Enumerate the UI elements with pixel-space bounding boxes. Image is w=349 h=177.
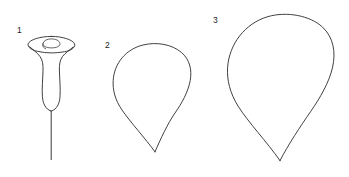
shape-label-2: 2 [105, 40, 110, 50]
line-drawing-figure: 1 2 3 [0, 0, 349, 177]
flower-body-right [52, 47, 73, 111]
shape-teardrop-large: 3 [213, 14, 334, 160]
figure-canvas: 1 2 3 [0, 0, 349, 177]
shape-label-3: 3 [213, 15, 218, 25]
teardrop-large-outline [227, 14, 334, 160]
shape-trumpet-flower: 1 [17, 25, 75, 160]
shape-teardrop-medium: 2 [105, 40, 191, 152]
shape-label-1: 1 [17, 25, 22, 35]
flower-inner-ring [43, 39, 60, 48]
teardrop-medium-outline [113, 44, 191, 152]
flower-body-left [30, 47, 51, 111]
